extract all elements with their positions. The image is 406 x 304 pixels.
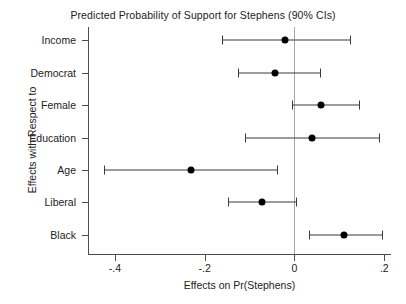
x-axis-tick-label: -.2 xyxy=(199,262,211,274)
y-axis-tick xyxy=(82,40,88,41)
confidence-interval-cap-liberal-upper xyxy=(296,198,297,207)
x-axis-tick xyxy=(384,255,385,261)
confidence-interval-cap-democrat-upper xyxy=(320,68,321,77)
y-axis-tick-label-education: Education xyxy=(29,132,80,144)
estimate-point-democrat xyxy=(272,69,279,76)
y-axis-tick xyxy=(82,105,88,106)
confidence-interval-cap-female-upper xyxy=(359,101,360,110)
estimate-point-female xyxy=(317,102,324,109)
x-axis-line xyxy=(88,254,391,255)
confidence-interval-cap-black-upper xyxy=(382,230,383,239)
confidence-interval-cap-liberal-lower xyxy=(228,198,229,207)
confidence-interval-line-female xyxy=(292,105,359,106)
y-axis-tick-label-liberal: Liberal xyxy=(44,196,80,208)
estimate-point-black xyxy=(340,231,347,238)
confidence-interval-cap-education-upper xyxy=(379,133,380,142)
estimate-point-income xyxy=(281,37,288,44)
confidence-interval-cap-age-upper xyxy=(277,165,278,174)
x-axis-tick xyxy=(115,255,116,261)
estimate-point-education xyxy=(308,134,315,141)
confidence-interval-cap-female-lower xyxy=(292,101,293,110)
y-axis-tick-label-black: Black xyxy=(50,229,80,241)
zero-reference-line xyxy=(294,27,295,254)
confidence-interval-cap-income-lower xyxy=(222,36,223,45)
confidence-interval-cap-black-lower xyxy=(309,230,310,239)
y-axis-tick xyxy=(82,73,88,74)
x-axis-tick xyxy=(205,255,206,261)
coefficient-plot-figure: Predicted Probability of Support for Ste… xyxy=(0,0,406,304)
y-axis-tick-label-female: Female xyxy=(41,99,80,111)
x-axis-tick-label: 0 xyxy=(292,262,298,274)
y-axis-tick-label-age: Age xyxy=(57,164,80,176)
confidence-interval-cap-income-upper xyxy=(350,36,351,45)
y-axis-tick xyxy=(82,202,88,203)
confidence-interval-cap-education-lower xyxy=(245,133,246,142)
chart-title: Predicted Probability of Support for Ste… xyxy=(0,9,406,21)
x-axis-tick-label: -.4 xyxy=(109,262,121,274)
y-axis-line xyxy=(88,27,89,255)
y-axis-tick xyxy=(82,170,88,171)
x-axis-tick-label: .2 xyxy=(380,262,389,274)
y-axis-tick xyxy=(82,138,88,139)
y-axis-tick-label-democrat: Democrat xyxy=(30,67,80,79)
y-axis-tick-label-income: Income xyxy=(42,34,80,46)
confidence-interval-line-democrat xyxy=(238,72,320,73)
estimate-point-liberal xyxy=(258,199,265,206)
x-axis-title: Effects on Pr(Stephens) xyxy=(88,279,391,291)
y-axis-tick xyxy=(82,235,88,236)
confidence-interval-cap-age-lower xyxy=(104,165,105,174)
x-axis-tick xyxy=(294,255,295,261)
confidence-interval-cap-democrat-lower xyxy=(238,68,239,77)
estimate-point-age xyxy=(187,166,194,173)
